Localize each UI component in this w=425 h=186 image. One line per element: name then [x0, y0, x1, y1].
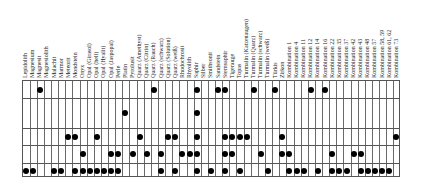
mark-dot [151, 87, 157, 93]
row-divider [23, 128, 399, 129]
mark-dot [222, 87, 228, 93]
mark-dot [158, 151, 164, 157]
mark-dot [194, 87, 200, 93]
row-divider [23, 145, 399, 146]
mark-dot [115, 168, 121, 174]
mark-dot [301, 168, 307, 174]
mark-dot [237, 134, 243, 140]
mark-dot [172, 168, 178, 174]
column-header-label: Kombination 48 [364, 39, 370, 78]
mark-dot [80, 168, 86, 174]
mark-dot [279, 151, 285, 157]
column-header: Malachit [51, 0, 58, 78]
mark-dot [379, 168, 385, 174]
column-header: Kombination 73 [393, 0, 400, 78]
column-header-label: Turmalin (Quarz) [250, 36, 256, 78]
column-header-label: Saphir [193, 62, 199, 78]
column-header: Meteorit [65, 0, 72, 78]
mark-dot [222, 168, 228, 174]
column-header: Tigerauge [229, 0, 236, 78]
mark-dot [94, 168, 100, 174]
column-header-label: Turmalin (schwarz) [257, 31, 263, 78]
mark-dot [286, 168, 292, 174]
mark-dot [108, 168, 114, 174]
column-header: Sandstein [215, 0, 222, 78]
column-header-label: Meteorit [65, 57, 71, 78]
mark-dot [358, 168, 364, 174]
column-header-label: Opal (hell) [93, 52, 99, 78]
column-header-label: Sternsaphir [222, 51, 228, 78]
column-header-label: Mondstein [72, 52, 78, 78]
column-header-label: Kombination 16 [322, 39, 328, 78]
column-header-label: Malachit [51, 57, 57, 78]
column-header-label: Quarz (schwarz) [158, 38, 164, 78]
column-header: Rhodochrosit [179, 0, 186, 78]
column-header-label: Silber [200, 64, 206, 78]
column-header-label: Kombination 43 [357, 39, 363, 78]
mark-dot [372, 168, 378, 174]
column-header-label: Kombination 1 [286, 42, 292, 78]
mark-dot [87, 168, 93, 174]
column-header-label: Opal (Jaspopal) [108, 40, 114, 78]
column-header-label: Lepidolith [22, 53, 28, 78]
column-header-label: Quarz (Amethyst) [136, 35, 142, 79]
column-header: Perle [115, 0, 122, 78]
mark-dot [187, 151, 193, 157]
column-header-label: Turmalin (weiß) [264, 39, 270, 78]
column-header-label: Topas [236, 64, 242, 78]
mark-dot [194, 134, 200, 140]
column-header-label: Marmor [58, 58, 64, 78]
column-header-label: Turmalin (Katzenaugen) [243, 19, 249, 78]
mark-dot [158, 168, 164, 174]
column-header-label: Kombination 4 [293, 42, 299, 78]
mark-dot [194, 151, 200, 157]
column-header: Opal (Jaspopal) [108, 0, 115, 78]
mark-dot [222, 151, 228, 157]
mark-dot [65, 134, 71, 140]
mark-dot [265, 168, 271, 174]
column-header-label: Perle [115, 66, 121, 78]
mark-dot [122, 110, 128, 116]
mark-dot [30, 168, 36, 174]
column-header: Kombination 58, 59 [379, 0, 386, 78]
mark-dot [130, 151, 136, 157]
column-header: Quarz (weiß) [172, 0, 179, 78]
column-header: Magnesiolith [43, 0, 50, 78]
column-header: Marmor [58, 0, 65, 78]
column-header: Quarz (Rauch) [150, 0, 157, 78]
mark-dot [272, 87, 278, 93]
mark-dot [329, 168, 335, 174]
column-header-label: Smithsonit [207, 52, 213, 78]
column-header: Kombination 14 [314, 0, 321, 78]
mark-dot [386, 168, 392, 174]
mark-dot [215, 87, 221, 93]
column-header-label: Kombination 58, 59 [379, 30, 385, 78]
column-header-label: Kombination 57 [371, 39, 377, 78]
mark-dot [194, 110, 200, 116]
column-header-label: Kombination 42 [350, 39, 356, 78]
table-grid [22, 80, 400, 177]
column-header-label: Kombination 73 [393, 39, 399, 78]
mark-dot [344, 168, 350, 174]
column-header-label: Kombination 22 [329, 39, 335, 78]
column-header-label: Kombination 35 [336, 39, 342, 78]
mark-dot [251, 87, 257, 93]
column-header: Kombination 16 [322, 0, 329, 78]
column-header: Kombination 37 [343, 0, 350, 78]
mark-dot [322, 87, 328, 93]
mark-dot [237, 168, 243, 174]
column-header-label: Magnesium [29, 50, 35, 78]
column-header-label: Rhyolith [186, 57, 192, 78]
column-header-label: Rhodochrosit [179, 46, 185, 78]
mark-dot [286, 151, 292, 157]
mark-dot [194, 168, 200, 174]
mineral-property-table: LepidolithMagnesiumMagnesitMagnesiolithM… [22, 0, 400, 178]
mark-dot [37, 87, 43, 93]
mark-dot [229, 151, 235, 157]
column-header: Kombination 22 [329, 0, 336, 78]
column-header-label: Kombination 61, 62 [386, 30, 392, 78]
column-header: Sternsaphir [222, 0, 229, 78]
column-header-label: Magnesiolith [43, 46, 49, 78]
mark-dot [393, 134, 399, 140]
column-header: Zirkon [279, 0, 286, 78]
